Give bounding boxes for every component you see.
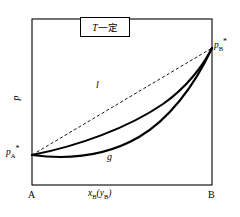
pressure-label-pure-b: pB* xyxy=(214,38,227,53)
condition-label: T一定 xyxy=(92,20,117,34)
gas-phase-label: g xyxy=(107,152,112,162)
x-axis-corner-b: B xyxy=(208,190,215,200)
condition-box: T一定 xyxy=(80,17,130,37)
gas-curve xyxy=(32,48,212,157)
liquid-phase-label: l xyxy=(96,80,99,90)
x-axis-corner-a: A xyxy=(28,190,35,200)
raoult-ideal-dashed-line xyxy=(32,48,212,155)
y-axis-label: p xyxy=(11,96,21,101)
phase-diagram-figure: T一定 p xB(yB) A B pA* pB* l g xyxy=(0,0,240,217)
x-axis-label: xB(yB) xyxy=(88,189,111,200)
pressure-label-pure-a: pA* xyxy=(6,145,19,160)
